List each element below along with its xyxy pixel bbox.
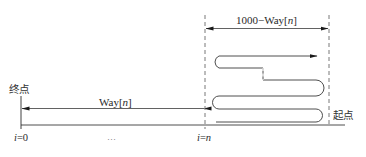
start-point-label: 起点 <box>333 110 353 121</box>
remaining-suffix: ] <box>293 14 297 26</box>
end-point-label: 终点 <box>9 84 29 95</box>
ellipsis-label: … <box>107 133 116 142</box>
i-zero-label: i=0 <box>14 133 28 144</box>
i-n-label: i=n <box>197 133 211 144</box>
way-n-prefix: Way[ <box>99 96 123 108</box>
remaining-label: 1000−Way[n] <box>236 15 297 26</box>
i-zero-rest: =0 <box>17 132 28 143</box>
way-n-suffix: ] <box>128 96 132 108</box>
serpentine-route <box>213 56 324 122</box>
i-n-val: n <box>206 132 211 143</box>
path-diagram <box>0 0 366 157</box>
remaining-prefix: 1000−Way[ <box>236 14 288 26</box>
way-n-label: Way[n] <box>99 97 132 108</box>
